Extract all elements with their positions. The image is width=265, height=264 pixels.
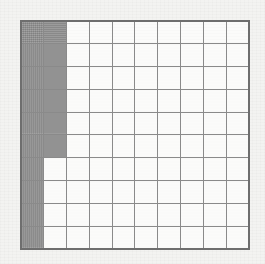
grid-cell-unshaded[interactable] [112, 21, 135, 44]
grid-cell-unshaded[interactable] [89, 44, 112, 67]
grid-cell-unshaded[interactable] [203, 89, 226, 112]
grid-cell-unshaded[interactable] [226, 44, 249, 67]
grid-cell-unshaded[interactable] [135, 181, 158, 204]
grid-cell-unshaded[interactable] [158, 89, 181, 112]
grid-cell-unshaded[interactable] [112, 203, 135, 226]
grid-cell-unshaded[interactable] [203, 21, 226, 44]
grid-cell-unshaded[interactable] [135, 44, 158, 67]
grid-cell-unshaded[interactable] [89, 112, 112, 135]
grid-cell-unshaded[interactable] [158, 44, 181, 67]
grid-cell-unshaded[interactable] [135, 135, 158, 158]
grid-cell-unshaded[interactable] [226, 181, 249, 204]
grid-cell-shaded[interactable] [44, 21, 67, 44]
grid-cell-unshaded[interactable] [158, 181, 181, 204]
grid-cell-shaded[interactable] [44, 44, 67, 67]
grid-cell-unshaded[interactable] [67, 21, 90, 44]
grid-cell-unshaded[interactable] [44, 203, 67, 226]
grid-cell-unshaded[interactable] [203, 44, 226, 67]
grid-cell-shaded[interactable] [44, 67, 67, 90]
grid-cell-shaded[interactable] [44, 89, 67, 112]
grid-cell-unshaded[interactable] [135, 89, 158, 112]
grid-cell-unshaded[interactable] [158, 226, 181, 249]
grid-cell-unshaded[interactable] [226, 158, 249, 181]
grid-cell-unshaded[interactable] [89, 181, 112, 204]
grid-cell-shaded[interactable] [21, 181, 44, 204]
grid-cell-unshaded[interactable] [89, 67, 112, 90]
grid-cell-unshaded[interactable] [203, 181, 226, 204]
grid-cell-unshaded[interactable] [203, 226, 226, 249]
grid-cell-unshaded[interactable] [67, 67, 90, 90]
grid-cell-unshaded[interactable] [158, 135, 181, 158]
grid-cell-unshaded[interactable] [67, 203, 90, 226]
grid-cell-unshaded[interactable] [181, 226, 204, 249]
grid-cell-shaded[interactable] [21, 158, 44, 181]
grid-cell-unshaded[interactable] [67, 44, 90, 67]
grid-cell-unshaded[interactable] [158, 21, 181, 44]
grid-cell-unshaded[interactable] [112, 44, 135, 67]
grid-cell-unshaded[interactable] [181, 44, 204, 67]
grid-cell-unshaded[interactable] [181, 112, 204, 135]
grid-cell-unshaded[interactable] [203, 67, 226, 90]
grid-cell-unshaded[interactable] [226, 135, 249, 158]
grid-cell-unshaded[interactable] [89, 226, 112, 249]
grid-cell-shaded[interactable] [21, 44, 44, 67]
grid-cell-unshaded[interactable] [89, 135, 112, 158]
grid-cell-unshaded[interactable] [112, 181, 135, 204]
grid-cell-shaded[interactable] [44, 135, 67, 158]
grid-cell-unshaded[interactable] [89, 21, 112, 44]
grid-cell-unshaded[interactable] [112, 112, 135, 135]
grid-cell-unshaded[interactable] [181, 67, 204, 90]
grid-cell-unshaded[interactable] [226, 21, 249, 44]
grid-cell-shaded[interactable] [21, 226, 44, 249]
grid-cell-unshaded[interactable] [135, 67, 158, 90]
grid-cell-unshaded[interactable] [181, 203, 204, 226]
grid-cell-unshaded[interactable] [181, 181, 204, 204]
grid-cell-unshaded[interactable] [158, 158, 181, 181]
grid-cell-unshaded[interactable] [158, 112, 181, 135]
grid-cell-unshaded[interactable] [203, 112, 226, 135]
grid-cell-unshaded[interactable] [89, 203, 112, 226]
grid-cell-unshaded[interactable] [89, 89, 112, 112]
grid-cell-unshaded[interactable] [135, 112, 158, 135]
grid-cell-shaded[interactable] [21, 135, 44, 158]
grid-cell-shaded[interactable] [21, 67, 44, 90]
grid-cell-unshaded[interactable] [112, 67, 135, 90]
grid-cell-shaded[interactable] [44, 112, 67, 135]
grid-cell-unshaded[interactable] [158, 67, 181, 90]
grid-cell-unshaded[interactable] [135, 203, 158, 226]
grid-cell-unshaded[interactable] [226, 89, 249, 112]
grid-cell-unshaded[interactable] [67, 135, 90, 158]
grid-cell-unshaded[interactable] [112, 135, 135, 158]
grid-cell-unshaded[interactable] [67, 181, 90, 204]
grid-cell-unshaded[interactable] [203, 135, 226, 158]
grid-cell-unshaded[interactable] [158, 203, 181, 226]
grid-cell-shaded[interactable] [21, 203, 44, 226]
grid-cell-unshaded[interactable] [89, 158, 112, 181]
grid-cell-unshaded[interactable] [67, 226, 90, 249]
grid-cell-unshaded[interactable] [203, 158, 226, 181]
grid-cell-unshaded[interactable] [226, 112, 249, 135]
grid-cell-shaded[interactable] [21, 21, 44, 44]
grid-cell-unshaded[interactable] [226, 67, 249, 90]
grid-cell-unshaded[interactable] [44, 158, 67, 181]
grid-cell-unshaded[interactable] [112, 89, 135, 112]
grid-cell-shaded[interactable] [21, 89, 44, 112]
grid-cell-unshaded[interactable] [226, 226, 249, 249]
grid-cell-unshaded[interactable] [44, 226, 67, 249]
grid-cell-unshaded[interactable] [112, 226, 135, 249]
grid-cell-unshaded[interactable] [135, 158, 158, 181]
grid-cell-unshaded[interactable] [181, 135, 204, 158]
grid-cell-unshaded[interactable] [181, 21, 204, 44]
grid-cell-unshaded[interactable] [112, 158, 135, 181]
grid-cell-unshaded[interactable] [135, 21, 158, 44]
grid-cell-unshaded[interactable] [44, 181, 67, 204]
grid-cell-unshaded[interactable] [135, 226, 158, 249]
grid-cell-unshaded[interactable] [67, 158, 90, 181]
grid-cell-unshaded[interactable] [181, 89, 204, 112]
grid-cell-unshaded[interactable] [67, 89, 90, 112]
grid-cell-unshaded[interactable] [203, 203, 226, 226]
grid-cell-unshaded[interactable] [67, 112, 90, 135]
grid-cell-unshaded[interactable] [181, 158, 204, 181]
grid-cell-shaded[interactable] [21, 112, 44, 135]
grid-cell-unshaded[interactable] [226, 203, 249, 226]
